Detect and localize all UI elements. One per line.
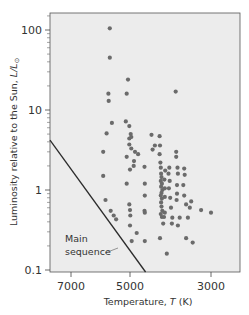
- star-point: [101, 150, 105, 154]
- star-point: [128, 223, 132, 227]
- star-point: [159, 205, 163, 209]
- star-point: [199, 208, 203, 212]
- star-point: [161, 222, 165, 226]
- star-point: [143, 194, 147, 198]
- star-point: [189, 199, 193, 203]
- star-point: [110, 121, 114, 125]
- star-point: [105, 131, 109, 135]
- star-point: [168, 196, 172, 200]
- x-tick-label: 7000: [57, 280, 85, 293]
- star-point: [128, 168, 132, 172]
- star-point: [143, 211, 147, 215]
- star-point: [108, 56, 112, 60]
- star-point: [170, 222, 174, 226]
- star-point: [129, 146, 133, 150]
- star-point: [153, 143, 157, 147]
- star-point: [127, 142, 131, 146]
- star-point: [191, 241, 195, 245]
- star-point: [124, 119, 128, 123]
- star-point: [182, 194, 186, 198]
- star-point: [127, 124, 131, 128]
- star-point: [112, 213, 116, 217]
- star-point: [109, 209, 113, 213]
- star-point: [101, 174, 105, 178]
- y-tick-label: 0.1: [25, 264, 43, 277]
- star-point: [158, 152, 162, 156]
- star-point: [163, 195, 167, 199]
- star-point: [181, 183, 185, 187]
- star-point: [165, 252, 169, 256]
- y-tick-label: 1: [35, 184, 42, 197]
- star-point: [142, 165, 146, 169]
- star-point: [175, 166, 179, 170]
- star-point: [125, 182, 129, 186]
- y-tick-label: 10: [28, 104, 42, 117]
- star-point: [176, 223, 180, 227]
- star-point: [159, 166, 163, 170]
- star-point: [182, 167, 186, 171]
- star-point: [158, 161, 162, 165]
- hr-diagram-chart: 0.1110100 700050003000 Main sequence Tem…: [0, 0, 249, 315]
- star-point: [167, 166, 171, 170]
- star-point: [127, 202, 131, 206]
- star-point: [188, 206, 192, 210]
- star-point: [107, 99, 111, 103]
- y-axis: 0.1110100: [21, 16, 50, 277]
- x-tick-label: 5000: [116, 280, 144, 293]
- star-point: [170, 216, 174, 220]
- star-point: [163, 169, 167, 173]
- star-point: [132, 164, 136, 168]
- y-axis-title: Luminosity relative to the Sun, L/L⊙: [8, 58, 21, 226]
- star-point: [175, 198, 179, 202]
- star-point: [168, 179, 172, 183]
- star-point: [108, 26, 112, 30]
- star-point: [158, 236, 162, 240]
- star-point: [178, 216, 182, 220]
- star-point: [175, 183, 179, 187]
- star-point: [184, 236, 188, 240]
- star-point: [125, 155, 129, 159]
- x-axis: 700050003000: [57, 272, 225, 293]
- star-point: [186, 216, 190, 220]
- star-point: [162, 178, 166, 182]
- star-point: [174, 90, 178, 94]
- star-point: [103, 198, 107, 202]
- star-point: [136, 152, 140, 156]
- star-point: [167, 186, 171, 190]
- star-point: [163, 186, 167, 190]
- star-point: [125, 92, 129, 96]
- star-point: [176, 172, 180, 176]
- star-point: [183, 173, 187, 177]
- star-point: [128, 213, 132, 217]
- star-point: [151, 148, 155, 152]
- star-point: [129, 135, 133, 139]
- star-point: [132, 159, 136, 163]
- star-point: [126, 78, 130, 82]
- star-point: [162, 215, 166, 219]
- star-point: [163, 211, 167, 215]
- star-point: [158, 134, 162, 138]
- star-point: [149, 133, 153, 137]
- x-tick-label: 3000: [197, 280, 225, 293]
- star-point: [184, 202, 188, 206]
- star-point: [175, 192, 179, 196]
- star-point: [130, 239, 134, 243]
- y-tick-label: 100: [21, 24, 42, 37]
- star-point: [158, 143, 162, 147]
- star-point: [143, 182, 147, 186]
- star-point: [128, 208, 132, 212]
- star-point: [174, 150, 178, 154]
- star-point: [135, 231, 139, 235]
- star-point: [106, 92, 110, 96]
- star-point: [114, 217, 118, 221]
- annotation-sequence: sequence: [65, 246, 111, 257]
- star-point: [209, 211, 213, 215]
- star-point: [169, 206, 173, 210]
- star-point: [166, 172, 170, 176]
- star-point: [159, 200, 163, 204]
- x-axis-title: Temperature, T (K): [103, 296, 193, 307]
- annotation-main: Main: [65, 233, 88, 244]
- star-point: [174, 155, 178, 159]
- star-point: [143, 239, 147, 243]
